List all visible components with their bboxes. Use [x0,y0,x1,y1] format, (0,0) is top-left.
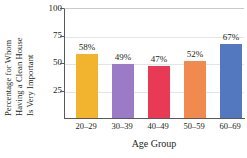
bar-value-50-59: 52% [187,49,204,59]
y-axis-title-line-2: Having a Clean House [14,37,24,116]
x-axis-line [64,118,245,119]
x-tick-label-50-59: 50–59 [174,121,214,131]
y-axis-title: Percentage for Whom Having a Clean House… [0,0,46,122]
bar-value-60-69: 67% [223,32,240,42]
bar-50-59: 52% [184,61,206,118]
bar-value-30-39: 49% [115,52,132,62]
bar-20-29: 58% [76,54,98,118]
bar-value-40-49: 47% [151,54,168,64]
x-axis-tick-labels: 20–29 30–39 40–49 50–59 60–69 [64,121,244,135]
y-axis-title-line-3: Is Very Important [25,54,35,116]
y-tick-label-100: 100 [42,4,62,13]
x-tick-label-40-49: 40–49 [138,121,178,131]
y-tick-label-75: 75 [42,31,62,40]
bar-60-69: 67% [220,44,242,118]
y-tick-label-25: 25 [42,86,62,95]
bar-30-39: 49% [112,64,134,118]
bar-chart-figure: Percentage for Whom Having a Clean House… [0,0,247,158]
x-tick-label-20-29: 20–29 [66,121,106,131]
bar-value-20-29: 58% [79,42,96,52]
y-axis-title-line-1: Percentage for Whom [3,40,13,116]
bar-40-49: 47% [148,66,170,118]
y-axis-tick-labels: 100 75 50 25 [42,0,62,130]
x-tick-label-30-39: 30–39 [102,121,142,131]
plot-area: 58% 49% 47% 52% 67% [64,8,244,118]
x-tick-label-60-69: 60–69 [210,121,247,131]
gridline-75 [65,37,244,38]
y-tick-label-50: 50 [42,58,62,67]
x-axis-title: Age Group [64,138,244,149]
